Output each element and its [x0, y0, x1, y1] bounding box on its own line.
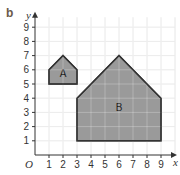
y-tick-label: 3: [23, 107, 29, 118]
y-tick-label: 2: [23, 121, 29, 132]
x-tick-label: 5: [102, 159, 108, 170]
coordinate-grid: AB 123456789123456789Oxy b: [0, 0, 180, 175]
y-tick-label: 4: [23, 93, 29, 104]
x-tick-label: 4: [88, 159, 94, 170]
x-tick-label: 1: [46, 159, 52, 170]
y-tick-label: 8: [23, 36, 29, 47]
x-axis-label: x: [172, 156, 178, 168]
x-tick-label: 2: [60, 159, 66, 170]
y-tick-label: 9: [23, 22, 29, 33]
x-tick-label: 8: [144, 159, 150, 170]
y-tick-label: 1: [23, 135, 29, 146]
x-tick-label: 6: [116, 159, 122, 170]
x-tick-label: 7: [130, 159, 136, 170]
y-tick-label: 5: [23, 79, 29, 90]
x-tick-label: 3: [74, 159, 80, 170]
y-axis-label: y: [25, 9, 31, 21]
y-tick-label: 6: [23, 64, 29, 75]
shapes: AB: [35, 17, 175, 155]
part-label: b: [6, 6, 13, 20]
x-tick-label: 9: [158, 159, 164, 170]
y-tick-label: 7: [23, 50, 29, 61]
origin-label: O: [25, 158, 33, 170]
